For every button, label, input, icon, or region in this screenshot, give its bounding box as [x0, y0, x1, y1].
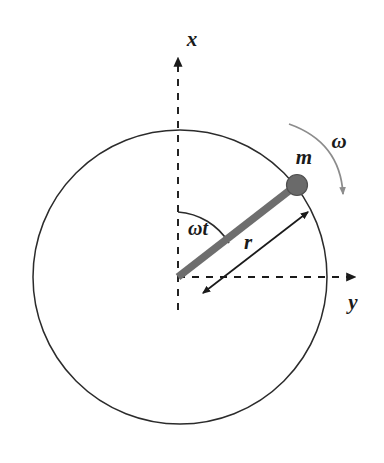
mass-label: m: [296, 145, 312, 169]
angle-label: ωt: [188, 217, 209, 239]
x-axis-label: x: [186, 27, 198, 51]
mass-dot: [287, 175, 308, 196]
diagram-canvas: x y m r ωt ω: [0, 0, 384, 463]
angular-velocity-label: ω: [331, 129, 346, 153]
y-axis-label: y: [345, 290, 358, 314]
radius-arrow: [203, 212, 308, 293]
rotating-mass-diagram: x y m r ωt ω: [0, 0, 384, 463]
radius-label: r: [244, 230, 253, 254]
